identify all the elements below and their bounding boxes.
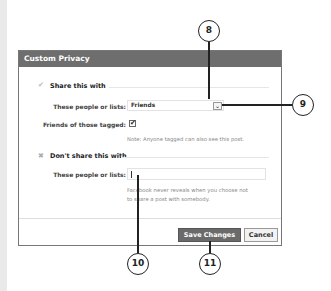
footer-divider [19, 218, 281, 219]
dont-share-people-label: These people or lists: [29, 171, 126, 178]
text-caret [131, 171, 132, 178]
callout-10-leader [137, 175, 139, 253]
dont-share-people-input[interactable] [127, 168, 266, 180]
share-people-value: Friends [131, 102, 155, 108]
save-changes-button[interactable]: Save Changes [178, 228, 241, 242]
page-edge-strip [0, 0, 7, 291]
callout-9-leader [222, 104, 292, 106]
share-people-label: These people or lists: [29, 103, 126, 110]
callout-10: 10 [127, 253, 149, 275]
callout-9: 9 [292, 94, 314, 116]
friends-tagged-checkbox[interactable]: ✔ [129, 120, 136, 127]
custom-privacy-dialog: Custom Privacy ✔ Share this with These p… [18, 50, 282, 246]
friends-tagged-label: Friends of those tagged: [19, 121, 126, 128]
section-divider [121, 157, 269, 158]
callout-8: 8 [198, 20, 220, 42]
dont-share-section-title: Don't share this with [50, 152, 127, 160]
dont-share-info-line2: to share a post with somebody. [127, 195, 210, 204]
share-section-title: Share this with [50, 82, 106, 90]
cancel-button[interactable]: Cancel [244, 228, 278, 242]
tagged-note: Note: Anyone tagged can also see this po… [127, 135, 244, 144]
callout-11: 11 [199, 253, 221, 275]
x-icon: ✖ [38, 152, 44, 160]
dont-share-info-line1: Facebook never reveals when you choose n… [127, 186, 248, 195]
share-people-select[interactable]: Friends ⌄ [127, 100, 224, 111]
callout-11-leader [209, 241, 211, 253]
chevron-down-icon[interactable]: ⌄ [213, 102, 222, 110]
dialog-title: Custom Privacy [19, 51, 281, 67]
callout-8-leader [208, 42, 210, 99]
section-divider [109, 87, 269, 88]
check-icon: ✔ [38, 81, 44, 89]
